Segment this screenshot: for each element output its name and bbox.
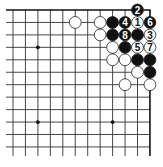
black-stone: 6 (144, 17, 156, 29)
black-stone (132, 29, 144, 41)
white-stone-icon (144, 79, 156, 91)
white-stone-icon (107, 54, 119, 66)
white-stone (94, 29, 106, 41)
move-number-label: 5 (135, 42, 141, 53)
black-stone-icon (107, 17, 119, 29)
black-stone: 2 (132, 4, 144, 16)
move-number-label: 7 (147, 42, 153, 53)
move-number-label: 1 (135, 17, 141, 28)
star-point-icon (111, 120, 115, 124)
white-stone-icon (119, 54, 131, 66)
move-number-label: 6 (147, 17, 153, 28)
white-stone-icon (119, 79, 131, 91)
go-board: 24168357 (0, 0, 163, 167)
move-number-label: 4 (122, 17, 128, 28)
black-stone (119, 41, 131, 53)
white-stone: 7 (144, 41, 156, 53)
white-stone-icon (94, 17, 106, 29)
star-point-icon (36, 45, 40, 49)
black-stone: 8 (119, 29, 131, 41)
black-stone: 4 (119, 17, 131, 29)
white-stone (69, 17, 81, 29)
white-stone (119, 54, 131, 66)
star-point-icon (36, 120, 40, 124)
black-stone-icon (144, 66, 156, 78)
black-stone-icon (119, 41, 131, 53)
black-stone-icon (132, 54, 144, 66)
white-stone (119, 79, 131, 91)
white-stone (107, 41, 119, 53)
white-stone-icon (107, 41, 119, 53)
white-stone (144, 79, 156, 91)
black-stone-icon (144, 54, 156, 66)
black-stone (144, 66, 156, 78)
white-stone (94, 17, 106, 29)
black-stone (107, 17, 119, 29)
white-stone: 1 (132, 17, 144, 29)
black-stone (132, 54, 144, 66)
white-stone (132, 66, 144, 78)
white-stone (107, 54, 119, 66)
white-stone: 3 (144, 29, 156, 41)
move-number-label: 3 (147, 30, 153, 41)
move-number-label: 8 (122, 30, 128, 41)
black-stone (107, 29, 119, 41)
black-stone-icon (132, 29, 144, 41)
white-stone-icon (94, 29, 106, 41)
black-stone (144, 54, 156, 66)
move-number-label: 2 (135, 5, 141, 16)
white-stone: 5 (132, 41, 144, 53)
black-stone-icon (107, 29, 119, 41)
white-stone-icon (132, 66, 144, 78)
white-stone-icon (69, 17, 81, 29)
